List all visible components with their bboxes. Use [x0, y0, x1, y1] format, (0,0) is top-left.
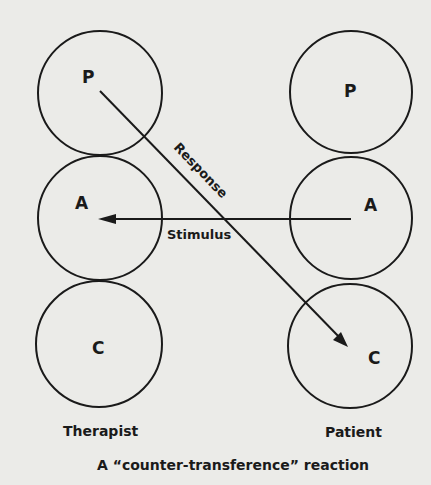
- stimulus-label: Stimulus: [167, 227, 232, 242]
- therapist-adult-label: A: [75, 193, 89, 213]
- response-arrow: [100, 91, 342, 340]
- therapist-label: Therapist: [63, 423, 139, 439]
- response-label: Response: [171, 140, 231, 201]
- patient-label: Patient: [325, 424, 382, 440]
- diagram-caption: A “counter-transference” reaction: [97, 457, 369, 473]
- patient-child-label: C: [368, 348, 380, 368]
- transactional-diagram: P A C P A C Stimulus Response Therapist …: [0, 0, 431, 485]
- therapist-parent-label: P: [82, 67, 94, 87]
- stimulus-arrowhead-icon: [98, 214, 116, 224]
- therapist-child-label: C: [92, 338, 104, 358]
- patient-adult-label: A: [364, 195, 378, 215]
- patient-parent-label: P: [344, 81, 356, 101]
